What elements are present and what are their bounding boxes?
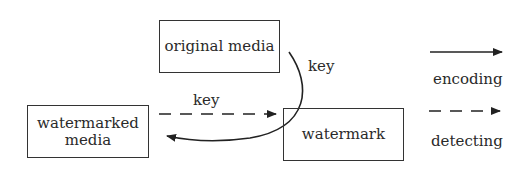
encoding-key-label: key bbox=[308, 58, 334, 75]
watermarked-media-node: watermarked media bbox=[27, 105, 149, 158]
watermark-node: watermark bbox=[283, 108, 404, 161]
original-media-node: original media bbox=[159, 20, 280, 73]
watermarked-media-label-2: media bbox=[65, 132, 111, 149]
detecting-key-label: key bbox=[193, 92, 219, 109]
watermark-label: watermark bbox=[302, 126, 385, 143]
legend-detecting-label: detecting bbox=[431, 133, 503, 150]
original-media-label: original media bbox=[164, 38, 274, 55]
watermarked-media-label-1: watermarked bbox=[37, 115, 139, 132]
legend-encoding-label: encoding bbox=[433, 71, 503, 88]
